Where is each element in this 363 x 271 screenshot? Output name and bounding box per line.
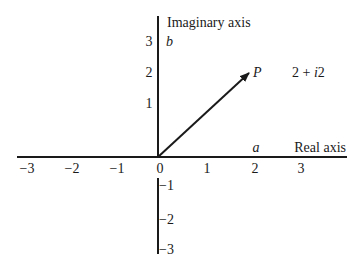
real-axis-title: Real axis bbox=[294, 140, 346, 155]
vector-arrow bbox=[158, 73, 249, 157]
real-tick-neg2: −2 bbox=[65, 161, 80, 176]
complex-plane-diagram: Imaginary axis b 3 2 1 P 2 + i2 a Real a… bbox=[0, 0, 363, 271]
imag-tick-1: 1 bbox=[146, 96, 153, 111]
imag-tick-3: 3 bbox=[146, 34, 153, 49]
real-tick-1: 1 bbox=[204, 161, 211, 176]
point-p-label: P bbox=[252, 65, 262, 80]
point-expression: 2 + i2 bbox=[292, 65, 325, 80]
imag-tick-neg3: −3 bbox=[159, 242, 174, 257]
complex-plane-svg: Imaginary axis b 3 2 1 P 2 + i2 a Real a… bbox=[0, 0, 363, 271]
imag-tick-2: 2 bbox=[146, 65, 153, 80]
real-tick-neg1: −1 bbox=[110, 161, 125, 176]
imag-tick-neg2: −2 bbox=[159, 212, 174, 227]
real-tick-2: 2 bbox=[252, 161, 259, 176]
imag-tick-neg1: −1 bbox=[159, 178, 174, 193]
real-tick-neg3: −3 bbox=[20, 161, 35, 176]
real-variable-label: a bbox=[253, 140, 260, 155]
real-tick-3: 3 bbox=[298, 161, 305, 176]
real-tick-0: 0 bbox=[157, 161, 164, 176]
imaginary-axis-title: Imaginary axis bbox=[167, 15, 251, 30]
imaginary-variable-label: b bbox=[166, 34, 173, 49]
